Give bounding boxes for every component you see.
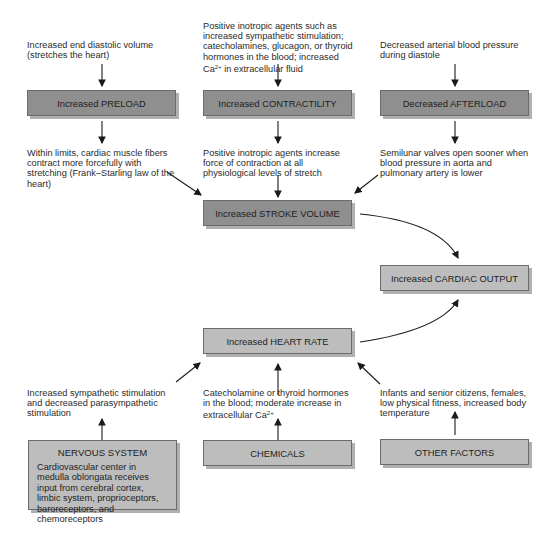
- other-factors-box: OTHER FACTORS: [380, 439, 529, 465]
- chemicals-box: CHEMICALS: [203, 440, 352, 466]
- preload-label: Increased PRELOAD: [57, 98, 146, 109]
- afterload-cause-text: Decreased arterial blood pressure during…: [380, 40, 540, 60]
- contractility-cause-text: Positive inotropic agents such as increa…: [203, 21, 355, 74]
- nervous-effect-text: Increased sympathetic stimulation and de…: [27, 388, 177, 419]
- nervous-system-title: NERVOUS SYSTEM: [37, 447, 168, 458]
- afterload-label: Decreased AFTERLOAD: [403, 98, 507, 109]
- chemicals-label: CHEMICALS: [250, 448, 305, 459]
- contractility-effect-text: Positive inotropic agents increase force…: [203, 148, 348, 179]
- cardiac-output-box: Increased CARDIAC OUTPUT: [380, 265, 529, 291]
- chemicals-effect-main: Catecholamine or thyroid hormones in the…: [203, 388, 349, 420]
- chemicals-effect-text: Catecholamine or thyroid hormones in the…: [203, 388, 353, 421]
- contractility-label: Increased CONTRACTILITY: [218, 98, 336, 109]
- preload-cause-text: Increased end diastolic volume (stretche…: [27, 40, 187, 60]
- contractility-cause-tail: in extracellular fluid: [222, 64, 303, 74]
- calcium-superscript: 2+: [267, 410, 274, 416]
- cardiac-output-label: Increased CARDIAC OUTPUT: [391, 273, 518, 284]
- other-effect-text: Infants and senior citizens, females, lo…: [380, 388, 530, 419]
- nervous-system-body: Cardiovascular center in medulla oblonga…: [37, 462, 168, 524]
- preload-box: Increased PRELOAD: [27, 90, 176, 116]
- calcium-superscript: 2+: [215, 64, 222, 70]
- afterload-effect-text: Semilunar valves open sooner when blood …: [380, 148, 530, 179]
- heart-rate-label: Increased HEART RATE: [226, 336, 328, 347]
- preload-effect-text: Within limits, cardiac muscle fibers con…: [27, 148, 177, 189]
- afterload-box: Decreased AFTERLOAD: [380, 90, 529, 116]
- nervous-system-box: NERVOUS SYSTEM Cardiovascular center in …: [28, 440, 177, 510]
- contractility-box: Increased CONTRACTILITY: [203, 90, 352, 116]
- other-factors-label: OTHER FACTORS: [415, 447, 495, 458]
- stroke-volume-label: Increased STROKE VOLUME: [215, 208, 340, 219]
- stroke-volume-box: Increased STROKE VOLUME: [203, 200, 352, 226]
- heart-rate-box: Increased HEART RATE: [203, 328, 352, 354]
